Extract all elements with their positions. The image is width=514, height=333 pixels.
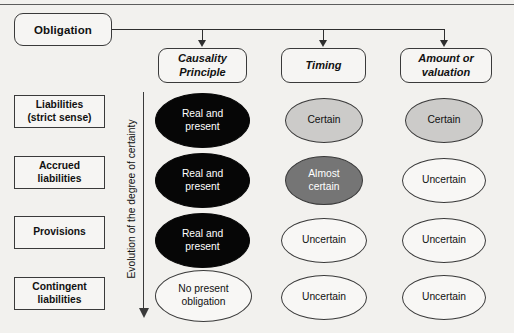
row-label-provisions-label: Provisions (33, 226, 86, 239)
certainty-axis-caption-text: Evolution of the degree of certainty (126, 119, 137, 278)
row-label-contingent-liabilities: Contingent liabilities (14, 277, 105, 310)
cell-r4c1-line2: obligation (177, 296, 229, 307)
row-label-accrued-line2: liabilities (37, 173, 81, 184)
cell-r1c3: Certain (405, 98, 483, 143)
row-label-accrued-line1: Accrued (39, 160, 80, 171)
cell-r2c1-line1: Real and (178, 168, 227, 179)
cell-r4c3-label: Uncertain (418, 291, 470, 304)
connector-arrow-amount (440, 40, 448, 47)
cell-r1c3-label: Certain (423, 114, 464, 127)
cell-r1c2-label: Certain (303, 114, 344, 127)
cell-r1c2: Certain (285, 98, 363, 143)
cell-r2c3-label: Uncertain (418, 174, 470, 187)
cell-r2c2-line2: certain (305, 181, 344, 192)
column-header-amount-line1: Amount or (418, 52, 474, 64)
cell-r4c1: No present obligation (155, 270, 252, 322)
cell-r3c2: Uncertain (281, 218, 367, 263)
row-label-contingent-line2: liabilities (37, 294, 81, 305)
column-header-amount-or-valuation: Amount or valuation (400, 48, 492, 83)
cell-r3c1-line2: present (181, 241, 223, 252)
obligation-root-box: Obligation (14, 13, 112, 46)
connector-trunk-horizontal (112, 29, 445, 30)
diagram-canvas: Obligation Causality Principle Timing Am… (0, 0, 514, 333)
cell-r4c3: Uncertain (402, 275, 486, 320)
row-label-provisions: Provisions (14, 216, 105, 249)
column-header-causality-line1: Causality (178, 52, 227, 64)
cell-r4c1-line1: No present (174, 283, 232, 294)
column-header-timing-label: Timing (306, 59, 342, 72)
cell-r1c1: Real and present (155, 93, 250, 148)
cell-r3c1-line1: Real and (178, 228, 227, 239)
row-label-liabilities-line2: (strict sense) (27, 112, 91, 123)
cell-r4c2-label: Uncertain (298, 291, 350, 304)
row-label-accrued-liabilities: Accrued liabilities (14, 156, 105, 189)
row-label-liabilities-strict-sense: Liabilities (strict sense) (14, 95, 105, 128)
cell-r3c1: Real and present (155, 213, 250, 268)
certainty-axis-line (143, 92, 144, 310)
row-label-contingent-line1: Contingent (32, 281, 86, 292)
cell-r1c1-line2: present (181, 121, 223, 132)
column-header-causality-principle: Causality Principle (158, 48, 247, 83)
cell-r1c1-line1: Real and (178, 108, 227, 119)
cell-r3c2-label: Uncertain (298, 234, 350, 247)
column-header-timing: Timing (281, 48, 366, 83)
certainty-axis-caption: Evolution of the degree of certainty (124, 92, 138, 306)
cell-r3c3-label: Uncertain (418, 234, 470, 247)
cell-r4c2: Uncertain (281, 275, 367, 320)
column-header-causality-line2: Principle (179, 66, 225, 78)
cell-r3c3: Uncertain (402, 218, 486, 263)
column-header-amount-line2: valuation (422, 66, 470, 78)
connector-arrow-timing (319, 40, 327, 47)
certainty-axis-arrowhead (139, 308, 149, 318)
obligation-root-label: Obligation (34, 24, 92, 36)
connector-arrow-causality (198, 40, 206, 47)
cell-r2c2: Almost certain (285, 156, 363, 205)
cell-r2c1: Real and present (155, 153, 250, 208)
cell-r2c2-line1: Almost (304, 168, 343, 179)
cell-r2c1-line2: present (181, 181, 223, 192)
cell-r2c3: Uncertain (402, 158, 486, 203)
row-label-liabilities-line1: Liabilities (36, 99, 84, 110)
page-top-rule (0, 4, 514, 5)
